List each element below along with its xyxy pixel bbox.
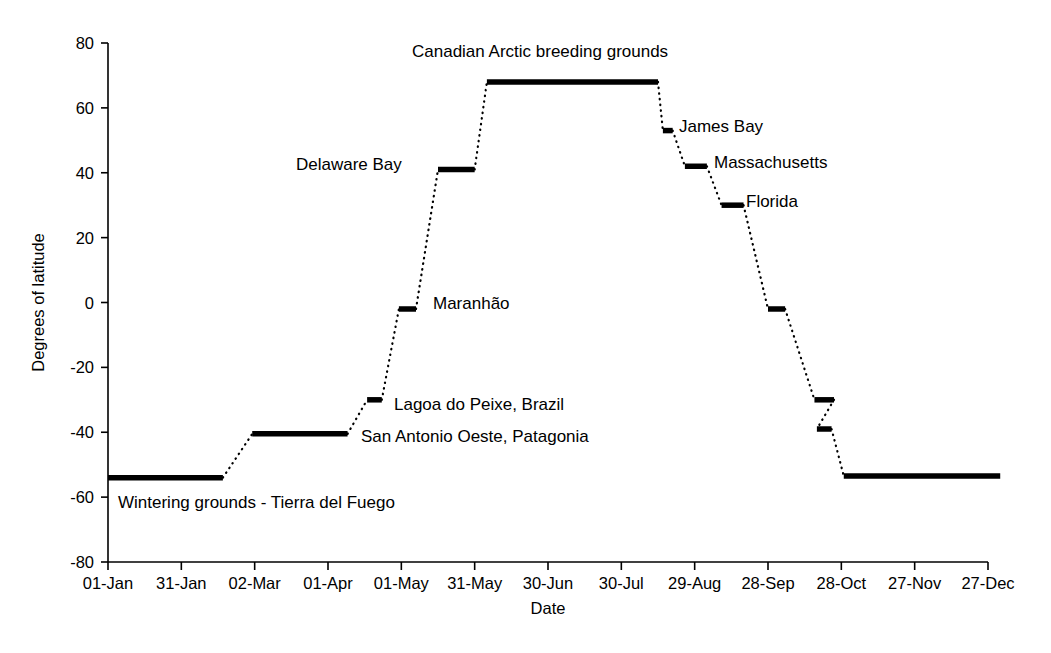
x-tick-label: 28-Sep	[741, 574, 794, 592]
migration-connector	[744, 205, 768, 309]
migration-latitude-chart: 806040200-20-40-60-80 01-Jan31-Jan02-Mar…	[0, 0, 1051, 653]
x-tick-label: 27-Nov	[888, 574, 942, 592]
migration-connector	[382, 309, 399, 400]
x-tick-label: 02-Mar	[229, 574, 282, 592]
y-tick-label: -60	[70, 488, 94, 506]
y-tick-label: 40	[76, 164, 94, 182]
y-tick-label: -80	[70, 553, 94, 571]
x-tick-label: 29-Aug	[668, 574, 721, 592]
annotation-label: Massachusetts	[714, 153, 827, 172]
annotation-label: Wintering grounds - Tierra del Fuego	[118, 493, 395, 512]
annotation-label: Maranhão	[433, 294, 510, 313]
y-tick-label: 80	[76, 34, 94, 52]
annotation-layer: Canadian Arctic breeding groundsJames Ba…	[118, 42, 827, 512]
migration-connector	[223, 434, 252, 478]
annotation-label: Canadian Arctic breeding grounds	[412, 42, 668, 61]
x-axis-title: Date	[531, 599, 566, 617]
y-tick-label: 0	[85, 294, 94, 312]
series-red-knot-migration	[108, 82, 1000, 478]
y-axis: 806040200-20-40-60-80	[70, 34, 108, 571]
y-axis-title: Degrees of latitude	[29, 233, 47, 372]
x-tick-label: 30-Jul	[599, 574, 644, 592]
migration-connector	[658, 82, 663, 131]
annotation-label: Florida	[746, 192, 799, 211]
y-tick-label: -20	[70, 358, 94, 376]
migration-connector	[475, 82, 487, 170]
x-tick-label: 28-Oct	[817, 574, 867, 592]
annotation-label: James Bay	[679, 117, 764, 136]
annotation-label: Lagoa do Peixe, Brazil	[394, 395, 564, 414]
x-tick-label: 30-Jun	[523, 574, 573, 592]
migration-connector	[832, 429, 844, 476]
axis-titles: DateDegrees of latitude	[29, 233, 565, 617]
y-tick-label: -40	[70, 423, 94, 441]
x-tick-label: 01-Apr	[303, 574, 353, 592]
x-tick-label: 27-Dec	[961, 574, 1014, 592]
migration-connector	[707, 166, 722, 205]
x-axis: 01-Jan31-Jan02-Mar01-Apr01-May31-May30-J…	[83, 562, 1015, 592]
x-tick-label: 31-May	[447, 574, 503, 592]
chart-canvas: 806040200-20-40-60-80 01-Jan31-Jan02-Mar…	[0, 0, 1051, 653]
annotation-label: Delaware Bay	[296, 155, 402, 174]
x-tick-label: 01-May	[374, 574, 430, 592]
y-tick-label: 20	[76, 229, 94, 247]
annotation-label: San Antonio Oeste, Patagonia	[361, 427, 589, 446]
migration-connector	[785, 309, 814, 400]
y-tick-label: 60	[76, 99, 94, 117]
x-tick-label: 31-Jan	[156, 574, 206, 592]
x-tick-label: 01-Jan	[83, 574, 133, 592]
migration-connector	[817, 400, 834, 429]
migration-connector	[416, 170, 438, 309]
